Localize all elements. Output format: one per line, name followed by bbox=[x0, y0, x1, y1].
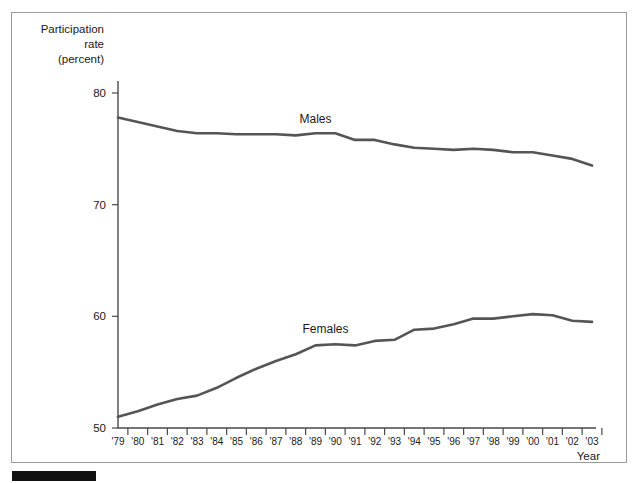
x-tick-label: '87 bbox=[269, 436, 282, 447]
y-tick-label: 50 bbox=[93, 422, 106, 434]
y-tick-label: 60 bbox=[93, 310, 106, 322]
series-line-males bbox=[118, 118, 592, 166]
x-tick-label: '83 bbox=[190, 436, 203, 447]
x-tick-label: '86 bbox=[250, 436, 263, 447]
x-tick-label: '94 bbox=[408, 436, 421, 447]
x-tick-label: '93 bbox=[388, 436, 401, 447]
x-tick-label: '98 bbox=[487, 436, 500, 447]
y-axis-ticks bbox=[112, 93, 118, 428]
x-tick-label: '79 bbox=[111, 436, 124, 447]
x-tick-label: '89 bbox=[309, 436, 322, 447]
x-tick-label: '82 bbox=[171, 436, 184, 447]
y-tick-label: 70 bbox=[93, 199, 106, 211]
x-tick-label: '80 bbox=[131, 436, 144, 447]
x-tick-label: '99 bbox=[506, 436, 519, 447]
y-axis-tick-labels: 50607080 bbox=[93, 87, 106, 434]
figure-root: Participation rate (percent) 50607080 '7… bbox=[0, 0, 638, 483]
x-tick-label: '88 bbox=[289, 436, 302, 447]
x-tick-label: '96 bbox=[447, 436, 460, 447]
x-tick-label: '01 bbox=[546, 436, 559, 447]
series-label-females: Females bbox=[302, 322, 348, 336]
source-bar bbox=[12, 471, 96, 481]
x-axis-tick-labels: '79'80'81'82'83'84'85'86'87'88'89'90'91'… bbox=[111, 436, 598, 447]
x-tick-label: '97 bbox=[467, 436, 480, 447]
data-series-group bbox=[118, 118, 592, 417]
x-tick-label: '00 bbox=[526, 436, 539, 447]
x-tick-label: '84 bbox=[210, 436, 223, 447]
line-chart-plot: 50607080 '79'80'81'82'83'84'85'86'87'88'… bbox=[0, 0, 638, 483]
series-line-females bbox=[118, 314, 592, 417]
x-tick-label: '03 bbox=[585, 436, 598, 447]
y-tick-label: 80 bbox=[93, 87, 106, 99]
x-tick-label: '91 bbox=[348, 436, 361, 447]
x-axis-title: Year bbox=[577, 450, 600, 462]
x-tick-label: '95 bbox=[427, 436, 440, 447]
x-axis-ticks bbox=[128, 428, 602, 435]
series-label-males: Males bbox=[299, 112, 331, 126]
x-tick-label: '90 bbox=[329, 436, 342, 447]
x-tick-label: '92 bbox=[368, 436, 381, 447]
x-tick-label: '81 bbox=[151, 436, 164, 447]
x-tick-label: '02 bbox=[566, 436, 579, 447]
axes-group bbox=[112, 81, 602, 435]
x-tick-label: '85 bbox=[230, 436, 243, 447]
